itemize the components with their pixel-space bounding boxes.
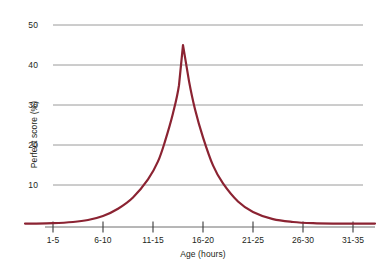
x-tick-label-6: 26-30 bbox=[278, 235, 328, 245]
data-series-line bbox=[25, 45, 375, 224]
gridlines-group bbox=[53, 25, 363, 185]
x-axis-title: Age (hours) bbox=[53, 249, 353, 259]
x-tick-label-7: 31-35 bbox=[328, 235, 378, 245]
x-tick-label-3: 11-15 bbox=[128, 235, 178, 245]
chart-plot-area bbox=[0, 0, 382, 269]
chart-container: 50 40 30 20 10 1-5 6-10 11-15 16-20 21-2… bbox=[0, 0, 382, 269]
x-tick-label-2: 6-10 bbox=[78, 235, 128, 245]
x-tick-label-4: 16-20 bbox=[178, 235, 228, 245]
x-tick-label-5: 21-25 bbox=[228, 235, 278, 245]
y-axis-title: Perfect score (%) bbox=[22, 0, 46, 269]
